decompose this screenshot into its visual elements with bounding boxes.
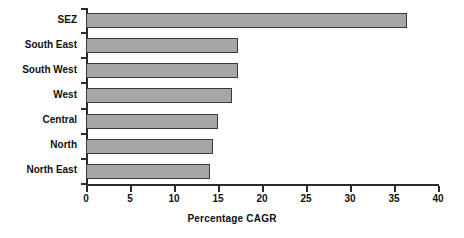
y-axis-tick [81,158,86,160]
x-axis-tick [174,186,176,192]
y-axis-tick [81,183,86,185]
category-label: SEZ [0,14,77,25]
x-axis-tick [438,186,440,192]
y-axis-tick [81,108,86,110]
bar-row [86,134,438,159]
y-axis-tick [81,57,86,59]
x-axis-tick-label: 0 [83,193,89,204]
bar [86,114,218,129]
bar [86,38,238,53]
bar-row [86,8,438,33]
bar-row [86,58,438,83]
x-axis-tick [218,186,220,192]
x-axis-tick-label: 20 [256,193,267,204]
category-label: South East [0,39,77,50]
x-axis-tick-label: 40 [432,193,443,204]
x-axis-tick [306,186,308,192]
x-axis-tick [262,186,264,192]
plot-area [86,8,438,184]
y-axis-tick [81,32,86,34]
x-axis-tick-label: 10 [168,193,179,204]
bar-chart: SEZSouth EastSouth WestWestCentralNorthN… [0,0,464,238]
category-label: Central [0,114,77,125]
category-label: West [0,89,77,100]
bar [86,63,238,78]
x-axis-tick-label: 5 [127,193,133,204]
x-axis-tick-label: 35 [388,193,399,204]
category-label: South West [0,64,77,75]
bar-row [86,83,438,108]
x-axis-tick-label: 15 [212,193,223,204]
bar-row [86,109,438,134]
x-axis-tick [130,186,132,192]
bar [86,164,210,179]
y-axis-tick [81,8,86,10]
category-label: North East [0,164,77,175]
bar-row [86,159,438,184]
x-axis-tick-label: 25 [300,193,311,204]
x-axis-tick [394,186,396,192]
y-axis-tick [81,133,86,135]
bar [86,88,232,103]
category-label: North [0,139,77,150]
bar-row [86,33,438,58]
x-axis-tick [350,186,352,192]
y-axis-tick [81,82,86,84]
bar [86,13,407,28]
x-axis-title: Percentage CAGR [0,213,464,224]
x-axis-tick [86,186,88,192]
x-axis-tick-label: 30 [344,193,355,204]
bar [86,139,213,154]
